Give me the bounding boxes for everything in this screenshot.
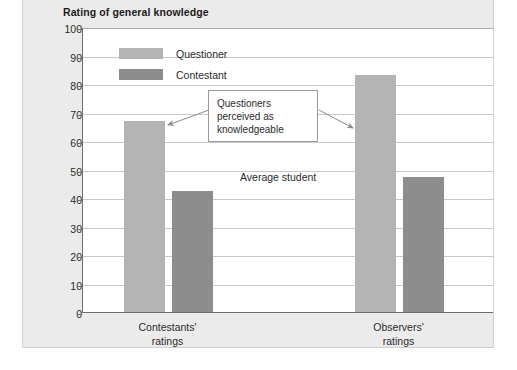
y-axis: 1009080706050403020100 [23,28,82,314]
annotation-arrow [168,110,209,125]
gridline [83,28,494,29]
annotation-callout-line: Questioners [217,97,317,110]
annotation-callout: Questionersperceived asknowledgeable [208,90,318,142]
plot-area: QuestionerContestantQuestionersperceived… [82,28,493,313]
bar-contestant-0 [172,191,213,312]
legend-swatch-questioner [119,48,163,59]
legend-label: Contestant [176,69,227,81]
x-axis-tick-label-1: Observers'ratings [339,320,459,348]
annotation-callout-line: perceived as [217,110,317,123]
x-axis-tick-label-line: ratings [339,334,459,348]
legend-item-questioner[interactable]: Questioner [119,43,227,64]
legend-swatch-contestant [119,69,163,80]
chart-panel: Rating of general knowledge 100908070605… [22,0,494,348]
bar-contestant-1 [403,177,444,312]
y-axis-tick-mark [77,314,82,315]
page-title: Rating of general knowledge [63,6,209,18]
bar-questioner-1 [355,75,396,312]
x-axis-tick-label-line: ratings [108,334,228,348]
annotation-average-student: Average student [240,171,316,183]
figure-root: Rating of general knowledge 100908070605… [0,0,517,370]
legend-item-contestant[interactable]: Contestant [119,64,227,85]
x-axis-tick-label-line: Observers' [339,320,459,334]
legend-label: Questioner [176,48,227,60]
gridline [83,85,494,86]
x-axis-tick-label-0: Contestants'ratings [108,320,228,348]
legend: QuestionerContestant [119,43,227,85]
annotation-callout-line: knowledgeable [217,123,317,136]
x-axis-tick-label-line: Contestants' [108,320,228,334]
bar-questioner-0 [124,121,165,312]
